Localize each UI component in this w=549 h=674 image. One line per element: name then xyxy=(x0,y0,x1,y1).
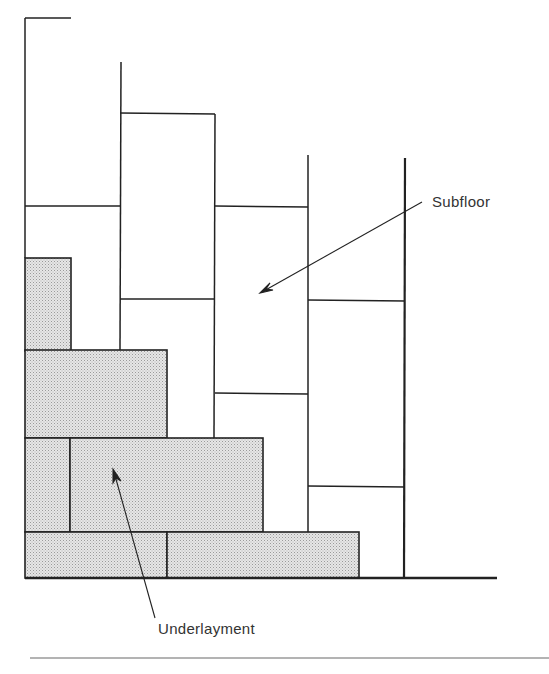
underlayment-panels xyxy=(25,258,359,578)
underlayment-panel xyxy=(25,438,70,532)
underlayment-panel xyxy=(167,532,359,578)
subfloor-label: Subfloor xyxy=(432,193,490,210)
floor-layout-diagram xyxy=(0,0,549,674)
underlayment-label: Underlayment xyxy=(158,620,255,637)
underlayment-panel xyxy=(25,350,167,438)
subfloor-leader-arrow xyxy=(260,202,422,293)
underlayment-panel xyxy=(25,258,71,351)
underlayment-panel xyxy=(70,438,263,532)
underlayment-panel xyxy=(25,532,167,578)
